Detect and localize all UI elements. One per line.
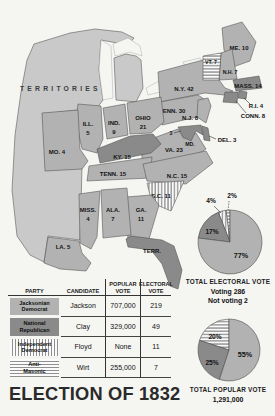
svg-text:MISS.: MISS. (80, 207, 97, 213)
popular-pie-caption: TOTAL POPULAR VOTE 1,291,000 (180, 386, 275, 404)
svg-text:11: 11 (138, 216, 145, 222)
svg-text:TERR.: TERR. (143, 248, 161, 254)
svg-text:ALA.: ALA. (106, 207, 120, 213)
party-swatch-jacksonian-democrat: Jacksonian Democrat (10, 298, 59, 316)
state-rhode-island: R.I. 4 (238, 91, 264, 109)
state-alabama: ALA. 7 (101, 188, 131, 238)
state-indiana: IND. 9 (103, 104, 128, 139)
electoral-slice-label-clay: 17% (205, 228, 218, 235)
state-tennessee: TENN. 15 (87, 157, 152, 181)
svg-text:R.I. 4: R.I. 4 (249, 103, 264, 109)
popular-slice-label-wirt: 20% (208, 333, 221, 340)
svg-text:KY. 15: KY. 15 (113, 154, 131, 160)
svg-text:TENN. 15: TENN. 15 (100, 171, 127, 177)
svg-text:VT. 7: VT. 7 (205, 59, 217, 65)
state-vermont: VT. 7 (203, 53, 221, 80)
svg-text:MASS. 14: MASS. 14 (234, 83, 262, 89)
electoral-slice-label-wirt: 2% (227, 192, 237, 199)
state-label-nh: N.H. 7 (223, 69, 238, 75)
territories-label: TERRITORIES (20, 85, 101, 92)
party-swatch-independent-democrat: Independent Democrat (10, 339, 59, 357)
results-table: PARTY CANDIDATE POPULAR VOTE ELECTORAL V… (8, 279, 171, 378)
popular-pie-title: TOTAL POPULAR VOTE (180, 386, 275, 395)
candidate-cell: Wirt (61, 358, 105, 379)
svg-text:LA. 5: LA. 5 (56, 244, 71, 250)
svg-text:21: 21 (140, 124, 147, 130)
candidate-cell: Clay (61, 317, 105, 338)
party-swatch-national-republican: National Republican (10, 318, 59, 336)
svg-text:N.J. 8: N.J. 8 (182, 115, 199, 121)
svg-text:CONN. 8: CONN. 8 (241, 113, 266, 119)
svg-text:MO. 4: MO. 4 (49, 149, 66, 155)
electoral-voting-note: Voting 286 (180, 287, 275, 296)
electoral-vote-cell: 219 (141, 296, 171, 317)
svg-text:VA. 23: VA. 23 (165, 147, 184, 153)
electoral-slice-label-floyd: 4% (206, 197, 216, 204)
header-candidate: CANDIDATE (61, 279, 105, 296)
table-row: Anti- Masonic Wirt 255,000 7 (8, 358, 171, 379)
svg-text:ILL.: ILL. (83, 121, 94, 127)
svg-text:MD.: MD. (185, 141, 195, 147)
state-ohio: OHIO 21 (127, 97, 164, 134)
electoral-vote-cell: 49 (141, 317, 171, 338)
table-row: National Republican Clay 329,000 49 (8, 317, 171, 338)
state-mississippi: MISS. 4 (79, 191, 100, 249)
table-row: Independent Democrat Floyd None 11 (8, 337, 171, 358)
svg-text:IND.: IND. (108, 120, 120, 126)
electoral-slice-label-jackson: 77% (234, 251, 249, 260)
svg-text:N.C. 15: N.C. 15 (167, 173, 188, 179)
table-row: Jacksonian Democrat Jackson 707,000 219 (8, 296, 171, 317)
electoral-pie-chart: 77% 17% 4% 2% (198, 192, 262, 274)
electoral-vote-cell: 11 (141, 337, 171, 358)
popular-slice-label-jackson: 55% (238, 350, 253, 359)
popular-vote-cell: None (105, 337, 141, 358)
popular-vote-cell: 255,000 (105, 358, 141, 379)
page-title: ELECTION OF 1832 (9, 383, 180, 405)
electoral-vote-cell: 7 (141, 358, 171, 379)
svg-text:DEL. 3: DEL. 3 (218, 137, 237, 143)
svg-text:S.C. 11: S.C. 11 (151, 193, 171, 199)
candidate-cell: Jackson (61, 296, 105, 317)
header-party: PARTY (8, 279, 61, 296)
maryland-callout-number: 3 (170, 130, 173, 136)
svg-text:OHIO: OHIO (135, 115, 151, 121)
electoral-pie-title: TOTAL ELECTORAL VOTE (180, 278, 275, 287)
state-massachusetts: MASS. 14 (233, 76, 262, 91)
state-delaware: DEL. 3 (202, 126, 237, 143)
party-swatch-anti-masonic: Anti- Masonic (10, 359, 59, 377)
popular-slice-label-clay: 25% (205, 359, 218, 366)
popular-pie-chart: 55% 25% 20% (198, 319, 260, 381)
popular-vote-cell: 707,000 (105, 296, 141, 317)
table-header-row: PARTY CANDIDATE POPULAR VOTE ELECTORAL V… (8, 279, 171, 296)
popular-vote-total: 1,291,000 (180, 395, 275, 404)
candidate-cell: Floyd (61, 337, 105, 358)
svg-text:GA.: GA. (136, 207, 147, 213)
michigan-territory-shape (114, 54, 143, 102)
electoral-notvoting-note: Not voting 2 (180, 296, 275, 305)
popular-vote-cell: 329,000 (105, 317, 141, 338)
svg-text:N.Y. 42: N.Y. 42 (174, 86, 194, 92)
header-popular-vote: POPULAR VOTE (105, 279, 141, 296)
electoral-pie-caption: TOTAL ELECTORAL VOTE Voting 286 Not voti… (180, 278, 275, 305)
header-electoral-vote: ELECTORAL VOTE (141, 279, 171, 296)
